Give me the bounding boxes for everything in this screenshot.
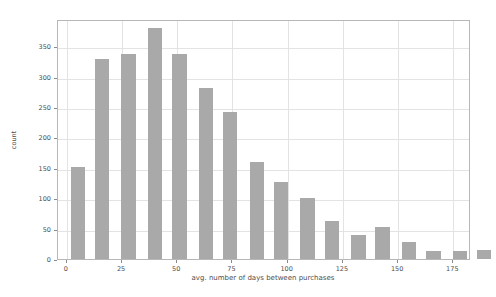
- histogram-bar: [95, 59, 109, 260]
- histogram-bar: [453, 251, 467, 260]
- histogram-bar: [300, 198, 314, 259]
- x-tick-label: 150: [391, 265, 403, 273]
- x-tick-mark: [66, 260, 67, 263]
- y-tick-label: 50: [43, 226, 51, 234]
- x-tick-mark: [231, 260, 232, 263]
- y-tick-label: 200: [39, 134, 51, 142]
- histogram-bar: [71, 167, 85, 259]
- x-tick-label: 0: [64, 265, 68, 273]
- x-tick-label: 175: [446, 265, 458, 273]
- bars-container: [58, 21, 469, 259]
- y-tick-label: 250: [39, 104, 51, 112]
- histogram-bar: [426, 251, 440, 260]
- y-axis-label: count: [10, 131, 18, 149]
- x-tick-mark: [397, 260, 398, 263]
- y-tick-label: 0: [47, 256, 51, 264]
- x-tick-label: 50: [172, 265, 180, 273]
- x-tick-label: 100: [280, 265, 292, 273]
- histogram-bar: [121, 54, 135, 259]
- x-tick-mark: [287, 260, 288, 263]
- histogram-bar: [172, 54, 186, 259]
- histogram-bar: [477, 250, 491, 259]
- y-tick-label: 150: [39, 165, 51, 173]
- x-axis-label: avg. number of days between purchases: [192, 274, 335, 282]
- x-tick-mark: [342, 260, 343, 263]
- histogram-bar: [402, 242, 416, 259]
- histogram-bar: [148, 28, 162, 259]
- histogram-bar: [223, 112, 237, 259]
- histogram-bar: [274, 182, 288, 259]
- histogram-bar: [351, 235, 365, 259]
- histogram-bar: [375, 227, 389, 259]
- y-tick-label: 100: [39, 195, 51, 203]
- y-tick-label: 350: [39, 43, 51, 51]
- x-tick-mark: [452, 260, 453, 263]
- x-tick-mark: [176, 260, 177, 263]
- x-tick-mark: [121, 260, 122, 263]
- y-tick-mark: [54, 260, 57, 261]
- histogram-figure: 050100150200250300350 025507510012515017…: [0, 0, 496, 297]
- x-tick-label: 75: [227, 265, 235, 273]
- histogram-bar: [325, 221, 339, 259]
- histogram-bar: [199, 88, 213, 259]
- x-tick-label: 25: [117, 265, 125, 273]
- x-tick-label: 125: [336, 265, 348, 273]
- y-tick-label: 300: [39, 74, 51, 82]
- plot-area: [57, 20, 470, 260]
- histogram-bar: [250, 162, 264, 259]
